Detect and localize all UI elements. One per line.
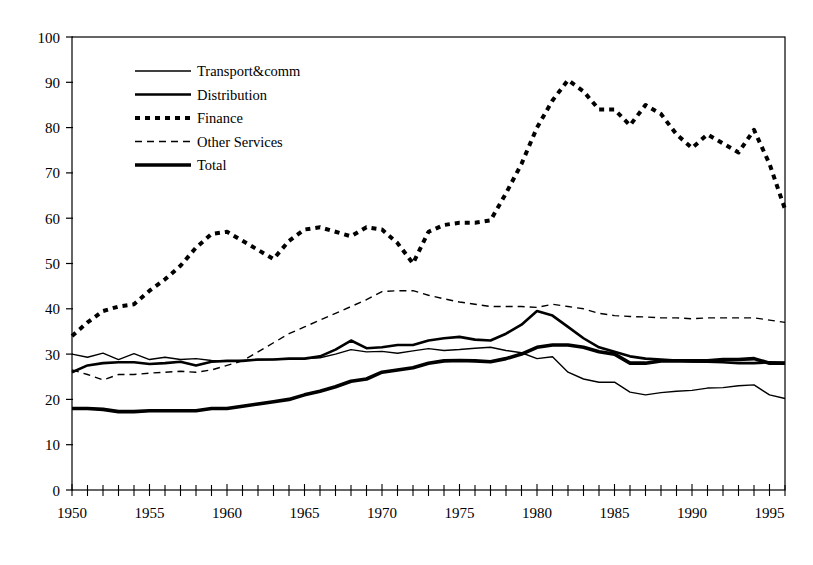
- x-tick-label-1990: 1990: [677, 505, 707, 521]
- line-chart: 0102030405060708090100 19501955196019651…: [0, 0, 813, 565]
- legend-label-transport-comm: Transport&comm: [197, 63, 301, 79]
- plot-frame: [72, 37, 785, 490]
- legend-label-total: Total: [197, 157, 227, 173]
- data-series-group: [72, 80, 785, 412]
- y-tick-label-60: 60: [45, 211, 60, 227]
- legend-label-finance: Finance: [197, 110, 243, 126]
- y-tick-label-100: 100: [38, 30, 61, 46]
- y-tick-label-50: 50: [45, 256, 60, 272]
- x-tick-label-1965: 1965: [290, 505, 320, 521]
- y-tick-label-40: 40: [45, 301, 60, 317]
- x-tick-label-1995: 1995: [755, 505, 785, 521]
- series-line-total: [72, 345, 785, 412]
- y-tick-label-0: 0: [53, 483, 61, 499]
- x-tick-label-1975: 1975: [445, 505, 475, 521]
- x-tick-label-1980: 1980: [522, 505, 552, 521]
- y-tick-label-90: 90: [45, 75, 60, 91]
- plot-border: [72, 37, 785, 490]
- x-axis-tick-labels: 1950195519601965197019751980198519901995: [57, 505, 785, 521]
- y-tick-label-20: 20: [45, 392, 60, 408]
- y-tick-label-30: 30: [45, 347, 60, 363]
- chart-legend: Transport&commDistributionFinanceOther S…: [135, 63, 301, 173]
- y-tick-label-80: 80: [45, 120, 60, 136]
- x-tick-label-1970: 1970: [367, 505, 397, 521]
- y-axis-tick-labels: 0102030405060708090100: [38, 30, 61, 499]
- chart-container: 0102030405060708090100 19501955196019651…: [0, 0, 813, 565]
- y-tick-label-70: 70: [45, 165, 60, 181]
- legend-label-distribution: Distribution: [197, 87, 268, 103]
- series-line-transport-comm: [72, 347, 785, 398]
- legend-label-other-services: Other Services: [197, 134, 283, 150]
- series-line-other-services: [72, 291, 785, 380]
- x-tick-label-1955: 1955: [135, 505, 165, 521]
- y-tick-label-10: 10: [45, 437, 60, 453]
- x-tick-label-1985: 1985: [600, 505, 630, 521]
- x-tick-label-1960: 1960: [212, 505, 242, 521]
- x-tick-label-1950: 1950: [57, 505, 87, 521]
